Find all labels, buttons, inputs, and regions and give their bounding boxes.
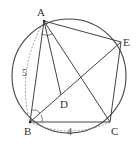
angle-mark-b2 — [41, 115, 42, 122]
angle-mark-b1 — [32, 110, 40, 113]
segment-be — [30, 42, 121, 122]
circumcircle — [12, 19, 126, 133]
segment-ad — [44, 21, 61, 95]
vertex-a-dot — [43, 20, 45, 22]
label-d: D — [60, 98, 68, 110]
label-c: C — [111, 125, 118, 137]
vertex-b-dot — [29, 121, 31, 123]
geometry-diagram: A B C D E 5 4 — [0, 0, 140, 150]
label-a: A — [37, 6, 45, 18]
measure-bc: 4 — [67, 126, 72, 137]
label-b: B — [24, 125, 31, 137]
segment-ce — [110, 42, 121, 122]
measure-ab: 5 — [22, 67, 27, 78]
segment-ab — [30, 21, 44, 122]
label-e: E — [123, 36, 130, 48]
